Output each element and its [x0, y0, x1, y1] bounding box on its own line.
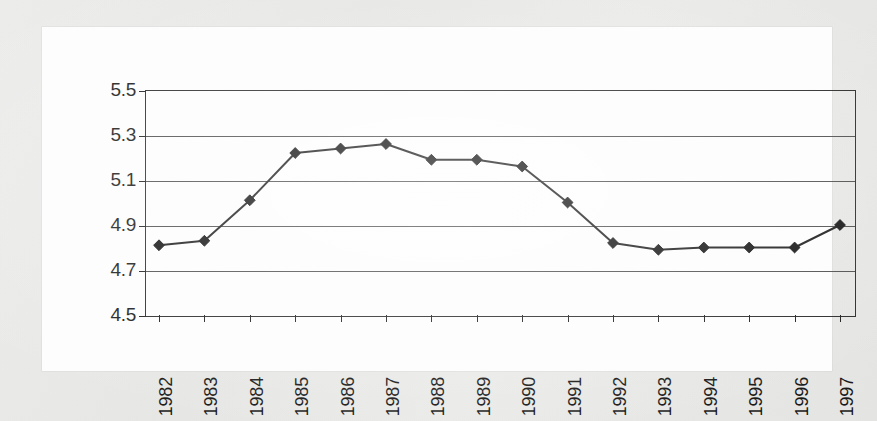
data-point-marker — [426, 154, 437, 165]
x-axis-tick-label: 1990 — [519, 377, 540, 416]
x-tick-mark — [658, 315, 659, 322]
x-tick-mark — [341, 315, 342, 322]
x-axis-tick-label: 1995 — [746, 377, 767, 416]
y-axis-tick-label: 4.9 — [110, 214, 136, 236]
x-axis-tick-label: 1994 — [700, 377, 721, 416]
y-axis-tick-label: 5.1 — [110, 169, 136, 191]
x-tick-mark — [431, 315, 432, 322]
x-axis-tick-label: 1991 — [564, 377, 585, 416]
y-axis-tick-label: 5.3 — [110, 124, 136, 146]
y-axis: 4.54.74.95.15.35.5 — [42, 27, 136, 371]
data-point-marker — [335, 143, 346, 154]
x-axis-tick-label: 1985 — [292, 377, 313, 416]
x-axis-tick-label: 1989 — [473, 377, 494, 416]
x-tick-mark — [613, 315, 614, 322]
x-axis-tick-label: 1986 — [337, 377, 358, 416]
y-axis-tick-label: 5.5 — [110, 79, 136, 101]
x-tick-mark — [749, 315, 750, 322]
data-point-marker — [154, 240, 165, 251]
data-point-marker — [471, 154, 482, 165]
x-axis-tick-label: 1982 — [156, 377, 177, 416]
data-point-marker — [698, 242, 709, 253]
x-tick-mark — [250, 315, 251, 322]
x-axis-tick-label: 1996 — [791, 377, 812, 416]
x-axis-tick-label: 1997 — [837, 377, 858, 416]
x-axis-tick-label: 1983 — [201, 377, 222, 416]
x-tick-mark — [477, 315, 478, 322]
chart-card: 4.54.74.95.15.35.5 198219831984198519861… — [42, 27, 832, 371]
x-axis-tick-label: 1993 — [655, 377, 676, 416]
x-axis-tick-label: 1992 — [610, 377, 631, 416]
x-tick-mark — [522, 315, 523, 322]
x-axis: 1982198319841985198619871988198919901991… — [145, 315, 854, 405]
x-axis-tick-label: 1988 — [428, 377, 449, 416]
x-tick-mark — [159, 315, 160, 322]
series-line — [159, 144, 840, 250]
y-axis-tick-label: 4.5 — [110, 304, 136, 326]
x-tick-mark — [295, 315, 296, 322]
data-point-marker — [744, 242, 755, 253]
data-series-layer — [145, 90, 854, 315]
data-point-marker — [381, 139, 392, 150]
x-axis-tick-label: 1984 — [246, 377, 267, 416]
x-axis-tick-label: 1987 — [383, 377, 404, 416]
data-point-marker — [835, 220, 846, 231]
x-tick-mark — [386, 315, 387, 322]
data-point-marker — [653, 244, 664, 255]
data-point-marker — [789, 242, 800, 253]
x-tick-mark — [204, 315, 205, 322]
x-tick-mark — [795, 315, 796, 322]
x-tick-mark — [840, 315, 841, 322]
y-axis-tick-label: 4.7 — [110, 259, 136, 281]
x-tick-mark — [568, 315, 569, 322]
x-tick-mark — [704, 315, 705, 322]
